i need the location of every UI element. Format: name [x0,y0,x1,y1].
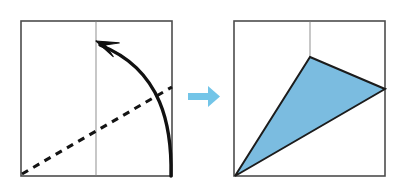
diagram-canvas [0,0,399,188]
panel-after-fold [234,21,385,176]
fold-sequence-figure [0,0,399,188]
transition-arrow-shaft [188,93,210,100]
panel-before-fold [21,21,172,176]
